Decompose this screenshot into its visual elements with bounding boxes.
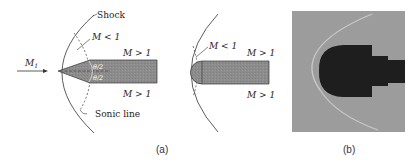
sonic-line-label: Sonic line [95, 109, 140, 119]
schlieren-photo [292, 11, 405, 132]
half-angle-upper: θ/2 [93, 63, 103, 71]
wedge-supersonic-lower: M > 1 [122, 89, 151, 99]
blunt-subsonic-leader [196, 47, 208, 57]
wedge-supersonic-upper: M > 1 [122, 48, 151, 58]
blunt-supersonic-upper: M > 1 [246, 48, 275, 58]
half-angle-lower: θ/2 [93, 74, 103, 82]
wedge-body [58, 60, 157, 83]
blunt-subsonic-label: M < 1 [208, 41, 237, 51]
blunt-body-diagram: M < 1 M > 1 M > 1 [191, 14, 276, 132]
shock-label: Shock [97, 10, 125, 20]
freestream-mach-label: M1 [24, 58, 38, 69]
wedge-subsonic-label: M < 1 [91, 32, 120, 42]
arrowhead-icon [43, 69, 48, 73]
caption-b: (b) [343, 144, 355, 155]
caption-a: (a) [156, 144, 168, 155]
sonic-line-leader [80, 110, 87, 114]
wedge-diagram: M1 Shock Sonic line M < 1 θ/2 θ/2 M > 1 … [17, 10, 157, 133]
diagram-canvas: M1 Shock Sonic line M < 1 θ/2 θ/2 M > 1 … [0, 0, 419, 164]
blunt-supersonic-lower: M > 1 [246, 90, 275, 100]
